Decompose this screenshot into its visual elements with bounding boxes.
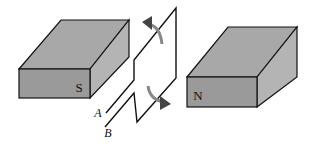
label-lead-a: A [93,106,102,120]
rotation-arrows [142,16,171,110]
lower-arrowhead-icon [160,96,171,110]
upper-arrowhead-icon [142,16,152,30]
magnet-north [187,27,297,107]
label-south-pole: S [75,80,82,95]
diagram-canvas: S N A B [0,0,314,144]
label-lead-b: B [104,126,112,140]
magnet-south [19,20,129,98]
label-north-pole: N [193,88,203,103]
